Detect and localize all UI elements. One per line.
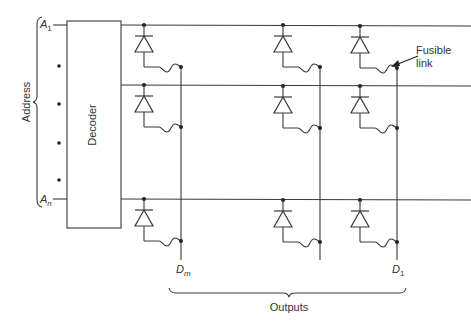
cell-r2-cmid <box>274 84 322 133</box>
prom-diagram: A1 An Address Decoder Dm D1 Outputs Fusi… <box>0 0 471 327</box>
fusible-label-line1: Fusible <box>416 44 451 56</box>
dm-label: Dm <box>176 263 191 278</box>
a1-label: A1 <box>39 18 52 33</box>
cell-r2-c1 <box>351 84 399 133</box>
an-label: An <box>39 193 52 208</box>
cell-r1-c1 <box>351 24 399 73</box>
address-label: Address <box>20 81 32 122</box>
address-brace <box>33 17 42 207</box>
row-line-1 <box>121 25 471 26</box>
row-line-n <box>121 199 471 200</box>
cell-rn-cmid <box>274 198 322 247</box>
decoder-label: Decoder <box>86 104 98 146</box>
outputs-label: Outputs <box>270 301 309 313</box>
cell-r2-cm <box>135 83 183 132</box>
cell-rn-cm <box>135 197 183 246</box>
row-line-2 <box>121 85 471 86</box>
cell-r1-cmid <box>274 23 322 72</box>
cell-r1-cm <box>135 23 183 72</box>
fusible-label-line2: link <box>416 57 433 69</box>
d1-label: D1 <box>392 263 405 278</box>
ellipsis-dots <box>57 64 61 182</box>
fusible-link-arrow <box>391 56 418 67</box>
cell-rn-c1 <box>351 198 399 247</box>
outputs-brace <box>169 288 406 297</box>
